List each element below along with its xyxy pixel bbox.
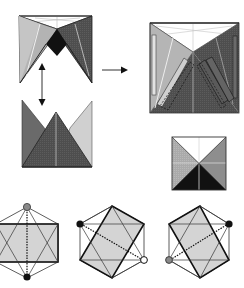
step-square-small [172,137,226,190]
hex-3-rectangle [169,206,229,278]
hex-2-left-marker [76,220,83,227]
left-edge-flap [152,35,156,95]
hex-1-top-marker [23,203,30,210]
step-square-large [150,23,239,113]
right-arrow [102,67,128,74]
origami-diagram [0,0,244,288]
hex-1 [0,203,58,280]
step-crown [22,100,92,167]
double-arrow [39,63,46,106]
hex-3-left-marker [166,257,173,264]
right-edge-flap [233,36,237,98]
hex-2-right-marker [141,257,148,264]
arrow-head-down-icon [39,99,46,106]
hex-3-right-marker [225,220,232,227]
hex-3 [166,206,233,278]
arrow-right-icon [121,67,128,74]
hex-2 [76,206,147,278]
arrow-head-up-icon [39,63,46,70]
step-w-fold [19,16,92,83]
hex-1-bottom-marker [23,273,30,280]
hex-1-rectangle [0,224,58,262]
